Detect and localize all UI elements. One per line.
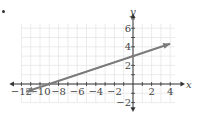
x-tick-label: −8 (51, 86, 66, 97)
y-tick-label: 6 (125, 23, 131, 34)
x-tick-label: 2 (148, 86, 154, 97)
series-line (26, 44, 170, 92)
x-axis-arrow-right-icon (180, 82, 185, 87)
y-tick-label: 2 (125, 60, 131, 71)
x-tick-label: −6 (70, 86, 85, 97)
x-tick-label: −2 (107, 86, 122, 97)
y-axis-arrow-down-icon (131, 107, 136, 112)
series (26, 43, 170, 92)
x-tick-label: −4 (88, 86, 103, 97)
y-tick-label: 4 (125, 41, 131, 52)
x-axis-label: x (186, 79, 192, 90)
x-tick-label: 4 (167, 86, 173, 97)
series-arrow-end-icon (163, 43, 171, 49)
chart: −12−10−8−6−4−224642−2 x y (0, 0, 197, 115)
y-axis-label: y (129, 6, 136, 17)
y-tick-label: −2 (116, 97, 131, 108)
